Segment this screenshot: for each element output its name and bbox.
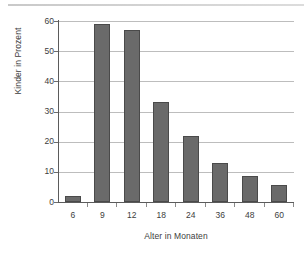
y-axis-tick-mark (54, 51, 58, 52)
y-axis-tick-mark (54, 112, 58, 113)
bar-slot (147, 21, 177, 202)
y-axis-tick-label: 20 (14, 137, 54, 146)
y-axis-tick-label: 30 (14, 107, 54, 116)
bar-series (58, 21, 294, 202)
x-axis-tick-label: 24 (176, 209, 206, 221)
bar-slot (206, 21, 236, 202)
y-axis-tick-mark (54, 172, 58, 173)
x-axis-tick-label: 12 (117, 209, 147, 221)
x-axis-tick-label: 18 (147, 209, 177, 221)
x-axis-tick-label: 9 (88, 209, 118, 221)
x-tick-slot (265, 203, 295, 207)
y-axis-tick-label: 10 (14, 167, 54, 176)
bar-slot (117, 21, 147, 202)
bar-slot (58, 21, 88, 202)
bar-chart-figure: Kinder in Prozent 69121824364860 Alter i… (0, 0, 308, 253)
bar-slot (235, 21, 265, 202)
bar[interactable] (153, 102, 169, 202)
y-axis-tick-label: 50 (14, 47, 54, 56)
x-tick-slot (117, 203, 147, 207)
y-axis-tick-mark (54, 202, 58, 203)
x-tick-slot (147, 203, 177, 207)
x-axis-tick-label: 36 (206, 209, 236, 221)
x-tick-slot (58, 203, 88, 207)
bar[interactable] (242, 176, 258, 202)
bar[interactable] (183, 136, 199, 202)
bar[interactable] (271, 185, 287, 202)
bar[interactable] (124, 30, 140, 202)
x-axis-tick-label: 60 (265, 209, 295, 221)
x-tick-slot (176, 203, 206, 207)
x-tick-slot (206, 203, 236, 207)
x-axis-title: Alter in Monaten (58, 231, 294, 242)
y-axis-tick-label: 60 (14, 17, 54, 26)
bar[interactable] (212, 163, 228, 202)
bar[interactable] (94, 24, 110, 202)
bar[interactable] (65, 196, 81, 202)
plot-wrapper: Kinder in Prozent 69121824364860 Alter i… (0, 0, 308, 253)
bar-slot (88, 21, 118, 202)
y-axis-tick-mark (54, 142, 58, 143)
x-axis-tick-label: 48 (235, 209, 265, 221)
y-axis-tick-mark (54, 81, 58, 82)
y-axis-tick-label: 0 (14, 198, 54, 207)
x-axis-tick-mark (293, 203, 294, 207)
y-axis-tick-mark (54, 21, 58, 22)
x-axis-tick-labels: 69121824364860 (58, 209, 294, 221)
x-axis-tick-label: 6 (58, 209, 88, 221)
bar-slot (265, 21, 295, 202)
x-tick-slot (88, 203, 118, 207)
x-axis-ticks (58, 203, 294, 207)
y-axis-tick-label: 40 (14, 77, 54, 86)
x-tick-slot (235, 203, 265, 207)
bar-slot (176, 21, 206, 202)
